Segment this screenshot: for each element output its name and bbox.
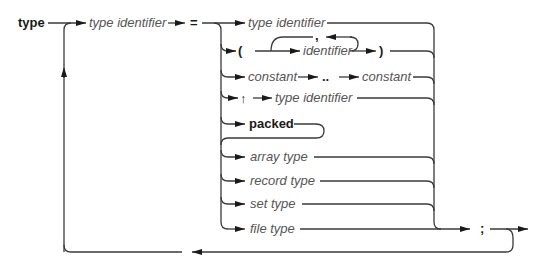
identifier: identifier bbox=[303, 43, 353, 58]
alt2-entry-arrow bbox=[221, 44, 236, 51]
entry-type-identifier: type identifier bbox=[89, 15, 167, 30]
alt1-line bbox=[327, 23, 434, 30]
type-syntax-diagram: type type identifier = type identifier (… bbox=[0, 0, 544, 266]
branch-vertical-right bbox=[434, 30, 441, 229]
array-type: array type bbox=[250, 149, 308, 164]
record-exit bbox=[320, 181, 434, 188]
equals-sign: = bbox=[190, 15, 198, 30]
record-entry-arrow bbox=[221, 174, 245, 181]
alt4-exit bbox=[357, 98, 434, 105]
constant-2: constant bbox=[362, 69, 413, 84]
semicolon: ; bbox=[480, 221, 484, 236]
return-loop-join bbox=[64, 23, 71, 67]
alt3-exit bbox=[413, 77, 434, 84]
set-type: set type bbox=[250, 196, 296, 211]
packed-entry-arrow bbox=[221, 117, 245, 124]
pointer-arrow: ↑ bbox=[240, 91, 247, 106]
array-exit bbox=[314, 157, 434, 164]
alt2-exit bbox=[390, 51, 434, 58]
constant-1: constant bbox=[248, 69, 299, 84]
array-entry-arrow bbox=[221, 150, 245, 157]
record-type: record type bbox=[250, 173, 315, 188]
file-type: file type bbox=[250, 221, 295, 236]
range-dots: .. bbox=[322, 69, 329, 84]
alt3-entry-arrow bbox=[221, 70, 245, 77]
open-paren: ( bbox=[238, 43, 243, 58]
set-entry-arrow bbox=[221, 197, 245, 204]
packed-keyword: packed bbox=[249, 116, 294, 131]
set-exit bbox=[302, 204, 434, 211]
return-loop-bottom bbox=[192, 229, 513, 252]
comma: , bbox=[315, 28, 319, 43]
pointer-type-identifier: type identifier bbox=[275, 90, 353, 105]
close-paren: ) bbox=[379, 43, 383, 58]
alt4-entry-arrow bbox=[221, 91, 238, 98]
diagram-title: type bbox=[18, 15, 45, 30]
return-loop-corner bbox=[64, 245, 182, 252]
